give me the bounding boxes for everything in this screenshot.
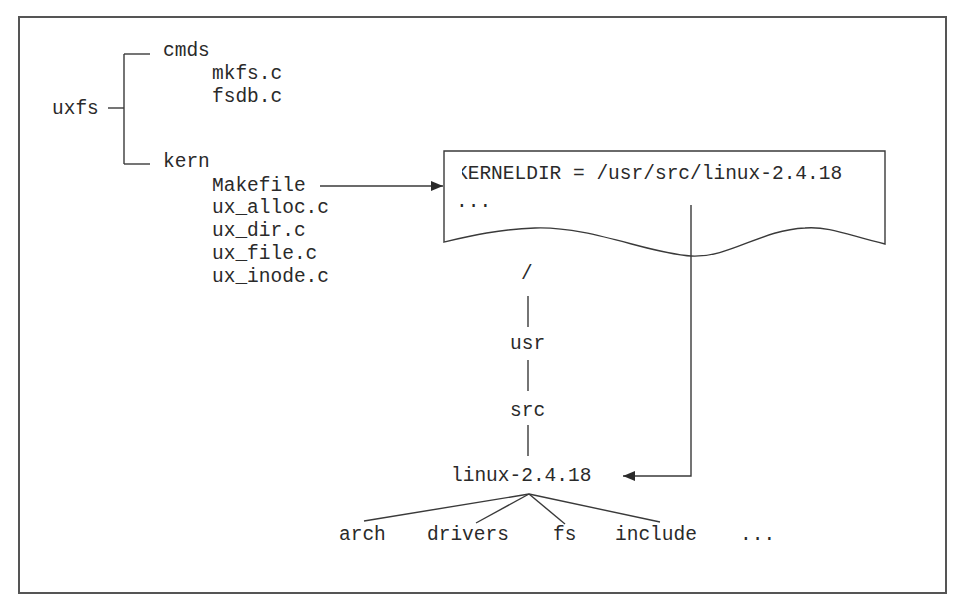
file-ux-alloc: ux_alloc.c xyxy=(212,197,329,219)
file-ux-dir: ux_dir.c xyxy=(212,220,306,242)
dir-kern: kern xyxy=(163,151,210,173)
file-fsdb: fsdb.c xyxy=(212,86,282,108)
uxfs-tree-connectors xyxy=(108,54,150,164)
linux-children-connectors xyxy=(364,494,660,524)
more-dirs-ellipsis: ... xyxy=(740,524,775,546)
dir-src: src xyxy=(510,400,545,422)
root-dir-uxfs: uxfs xyxy=(52,98,99,120)
dir-arch: arch xyxy=(339,524,386,546)
dir-drivers: drivers xyxy=(427,524,509,546)
dir-root-slash: / xyxy=(521,263,533,285)
dir-usr: usr xyxy=(510,333,545,355)
dir-linux: linux-2.4.18 xyxy=(451,465,591,487)
kerneldir-to-linux-arrow xyxy=(623,205,691,476)
dir-cmds: cmds xyxy=(163,40,210,62)
file-ux-inode: ux_inode.c xyxy=(212,266,329,288)
file-ux-file: ux_file.c xyxy=(212,243,317,265)
makefile-ellipsis: ... xyxy=(456,191,491,213)
dir-include: include xyxy=(615,524,697,546)
uxfs-kernel-source-diagram: uxfs cmds mkfs.c fsdb.c kern Makefile ux… xyxy=(0,0,960,608)
file-makefile: Makefile xyxy=(212,175,306,197)
kerneldir-line: KERNELDIR = /usr/src/linux-2.4.18 xyxy=(456,163,842,185)
file-mkfs: mkfs.c xyxy=(212,63,282,85)
dir-fs: fs xyxy=(553,524,576,546)
figure-frame xyxy=(19,17,946,593)
